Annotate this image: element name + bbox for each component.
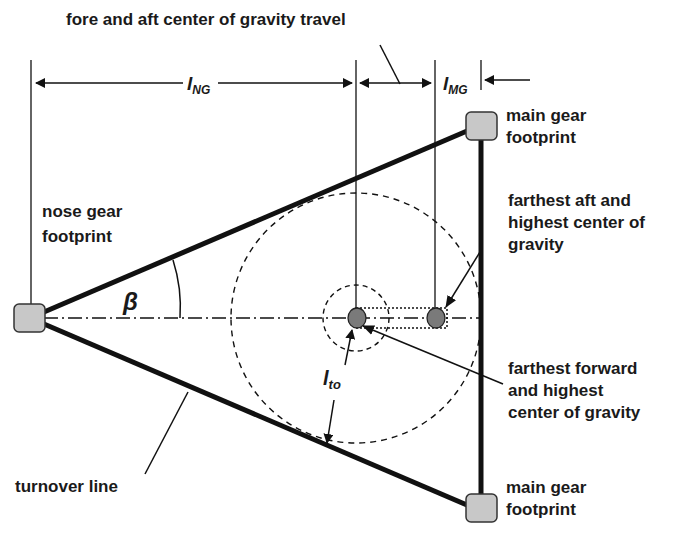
l-to-symbol: lto [323,367,341,392]
aft-cg-leader [446,252,480,307]
beta-symbol: β [122,288,138,315]
turnover-diagram: fore and aft center of gravity travel lN… [0,0,686,542]
l-to-arrow-down [327,400,334,443]
cg-travel-label: fore and aft center of gravity travel [66,10,346,29]
turnover-line-leader [145,392,188,474]
beta-angle-arc [173,260,180,318]
l-ng-symbol: lNG [187,73,210,97]
fwd-cg-point [348,308,366,328]
l-to-arrow-up [345,330,352,365]
aft-cg-label: farthest aft and highest center of gravi… [508,191,650,254]
turnover-line-label: turnover line [15,477,118,496]
nose-gear-label: nose gear footprint [42,202,127,246]
main-gear-footprint-bottom [466,494,497,522]
fwd-cg-label: farthest forward and highest center of g… [508,359,642,422]
main-gear-top-label: main gear footprint [506,106,591,147]
aft-cg-point [427,308,445,328]
cg-travel-leader [380,45,400,84]
main-gear-footprint-top [466,112,497,140]
l-mg-symbol: lMG [443,73,468,97]
main-gear-bottom-label: main gear footprint [506,478,591,519]
nose-gear-footprint [14,304,45,332]
